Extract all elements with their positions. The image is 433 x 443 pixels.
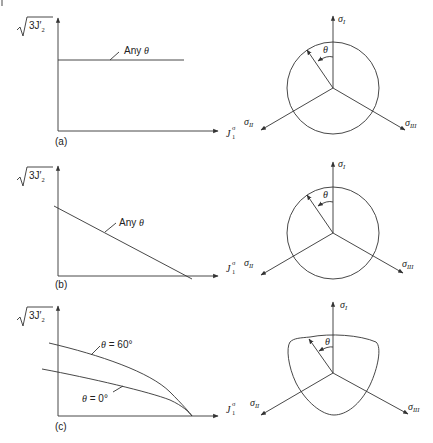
curve-theta-0 xyxy=(42,369,192,416)
sigma-II-label-a: σII xyxy=(244,116,254,128)
y-axis-label-b: 3J′2 xyxy=(17,167,53,186)
leader-theta-60 xyxy=(91,346,100,355)
theta-label-a: θ xyxy=(323,44,328,55)
sigma-II-axis-b xyxy=(261,233,333,275)
y-axis-label-a: 3J′2 xyxy=(17,17,53,36)
panel-c-deviatoric-plane: θ σI σII σIII xyxy=(250,299,420,415)
panel-b-meridian-plot: 3J′2 J σ 1 Any θ (b) xyxy=(17,166,236,290)
sigma-II-axis-c xyxy=(261,373,333,415)
curve-label-any-theta-a: Any θ xyxy=(124,45,149,56)
svg-text:3J′2: 3J′2 xyxy=(29,310,45,323)
yield-surface-figure: 3J′2 J σ 1 Any θ (a) θ σI σII σIII 3J′ xyxy=(0,0,433,443)
svg-text:J: J xyxy=(226,263,231,274)
x-axis-label-a: J σ 1 xyxy=(226,124,236,140)
sigma-II-label-c: σII xyxy=(250,397,260,409)
sigma-III-label-a: σIII xyxy=(405,117,417,129)
svg-text:J: J xyxy=(226,404,231,415)
panel-b-deviatoric-plane: θ σI σII σIII xyxy=(244,158,414,279)
svg-text:σ: σ xyxy=(232,124,236,131)
svg-text:σ: σ xyxy=(232,400,236,407)
curve-theta-60 xyxy=(49,343,192,416)
panel-c-meridian-plot: 3J′2 J σ 1 θ = 60° θ = 0° (c) xyxy=(17,306,236,432)
theta-label-b: θ xyxy=(323,189,328,200)
panel-tag-a: (a) xyxy=(55,136,67,147)
sigma-III-axis-b xyxy=(333,233,403,273)
leader-b xyxy=(105,223,116,232)
svg-text:σ: σ xyxy=(232,259,236,266)
sigma-III-axis-a xyxy=(333,88,405,130)
svg-text:J: J xyxy=(226,128,231,139)
theta-arc-b xyxy=(318,202,333,207)
theta-arc-c xyxy=(319,347,333,351)
svg-text:1: 1 xyxy=(232,133,235,140)
sigma-III-label-c: σIII xyxy=(408,401,420,413)
stress-vector-a xyxy=(307,50,333,88)
leader-theta-0 xyxy=(113,386,123,392)
sigma-II-axis-a xyxy=(261,88,333,130)
curve-label-theta-60: θ = 60° xyxy=(101,339,132,350)
panel-a-meridian-plot: 3J′2 J σ 1 Any θ (a) xyxy=(17,17,236,147)
curve-label-theta-0: θ = 0° xyxy=(82,393,108,404)
panel-a-deviatoric-plane: θ σI σII σIII xyxy=(244,13,417,134)
svg-text:1: 1 xyxy=(232,268,235,275)
curve-label-any-theta-b: Any θ xyxy=(119,217,144,228)
x-axis-label-c: J σ 1 xyxy=(226,400,236,416)
sigma-I-label-a: σI xyxy=(338,13,346,25)
sigma-III-label-b: σIII xyxy=(402,258,414,270)
sigma-II-label-b: σII xyxy=(244,257,254,269)
svg-text:1: 1 xyxy=(232,409,235,416)
theta-label-c: θ xyxy=(325,336,330,347)
theta-arc-a xyxy=(318,57,333,62)
panel-tag-c: (c) xyxy=(55,421,67,432)
y-axis-label-c: 3J′2 xyxy=(17,307,53,326)
sigma-I-label-c: σI xyxy=(340,299,348,311)
panel-tag-b: (b) xyxy=(55,279,67,290)
stress-vector-b xyxy=(307,195,333,233)
x-axis-label-b: J σ 1 xyxy=(226,259,236,275)
svg-text:3J′2: 3J′2 xyxy=(29,170,45,183)
sigma-I-label-b: σI xyxy=(338,158,346,170)
leader-a xyxy=(110,52,119,60)
sigma-III-axis-c xyxy=(333,373,408,414)
svg-text:3J′2: 3J′2 xyxy=(29,20,45,33)
